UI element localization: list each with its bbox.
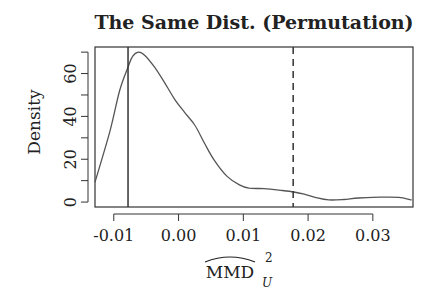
chart: The Same Dist. (Permutation) 0204060 -0.… [0, 0, 438, 294]
plot-frame [95, 47, 413, 207]
y-tick-label: 60 [61, 63, 80, 83]
x-tick-label: 0.02 [290, 226, 326, 245]
x-axis-label-subscript: U [262, 276, 273, 290]
x-axis-label-main: MMD [206, 262, 254, 282]
x-axis-label: MMD 2 U [205, 251, 273, 290]
x-tick-label: -0.01 [93, 226, 134, 245]
y-tick-label: 40 [61, 106, 80, 126]
x-tick-label: 0.01 [226, 226, 262, 245]
x-axis-label-superscript: 2 [265, 251, 273, 265]
chart-svg: The Same Dist. (Permutation) 0204060 -0.… [0, 0, 438, 294]
y-tick-label: 0 [61, 197, 80, 207]
chart-title: The Same Dist. (Permutation) [94, 11, 413, 33]
x-tick-label: 0.03 [355, 226, 391, 245]
y-tick-label: 20 [61, 149, 80, 169]
y-axis: 0204060 [61, 52, 88, 207]
density-curve [95, 52, 412, 200]
x-tick-label: 0.00 [161, 226, 197, 245]
x-axis: -0.010.000.010.020.03 [93, 214, 390, 245]
y-axis-label: Density [24, 89, 44, 155]
plot-area [95, 47, 413, 207]
